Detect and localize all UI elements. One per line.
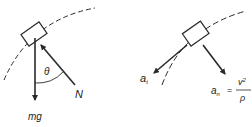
fraction-numerator: v2 <box>238 77 247 87</box>
tangential-acceleration-arrow <box>154 45 187 73</box>
gravity-label: mg <box>28 111 42 122</box>
normal-force-arrow <box>41 45 75 85</box>
circular-path-dashed <box>4 8 95 80</box>
fraction-denominator: ρ <box>239 93 245 103</box>
tangential-label: at <box>140 72 148 85</box>
normal-accel-label: an <box>211 85 221 97</box>
block <box>21 22 47 46</box>
normal-force-label: N <box>75 88 83 100</box>
left-free-body-diagram: θ N mg <box>4 8 95 122</box>
right-acceleration-diagram: at an = v2 ρ <box>140 11 251 103</box>
diagram-canvas: θ N mg at an = v2 ρ <box>0 0 252 127</box>
normal-acceleration-arrow <box>203 45 225 74</box>
angle-theta-label: θ <box>44 66 50 77</box>
equals-sign: = <box>227 85 232 95</box>
block-right <box>182 21 209 46</box>
circular-path-dashed-right <box>162 11 246 85</box>
